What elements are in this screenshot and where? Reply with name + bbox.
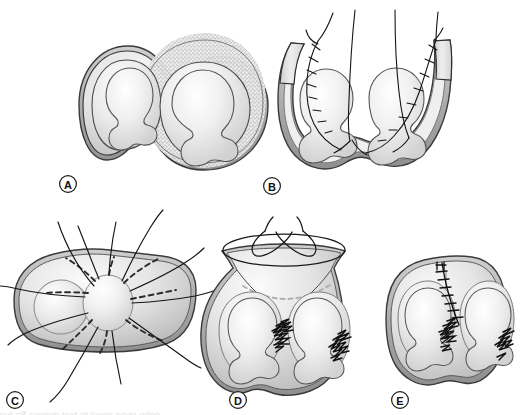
panel-label-b: B: [264, 178, 281, 195]
panel-a-inner-body-left: [106, 68, 157, 150]
panel-label-c: C: [7, 392, 24, 409]
panel-label-e-text: E: [396, 395, 403, 407]
panel-d-inner-body-left: [228, 298, 279, 384]
panel-label-a-text: A: [64, 179, 72, 191]
panel-e-inner-body-right: [465, 288, 513, 371]
panel-b-reflected-right-flap: [434, 40, 452, 80]
panel-label-b-text: B: [268, 181, 276, 193]
panel-label-a: A: [60, 176, 77, 193]
panel-label-c-text: C: [11, 395, 19, 407]
figure-plate: A: [0, 0, 521, 415]
panel-label-d-text: D: [234, 395, 242, 407]
caption-sliver: cut-off caption text at lower page edge: [0, 409, 521, 415]
panel-label-d: D: [230, 392, 247, 409]
panel-b-inner-body-right: [368, 68, 426, 165]
panel-label-e: E: [392, 392, 409, 409]
panel-a-inner-body-right: [172, 70, 238, 166]
